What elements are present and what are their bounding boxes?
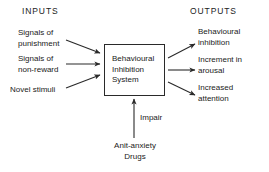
arrow-novel-stimuli-to-bis bbox=[66, 75, 100, 88]
arrow-punishment-to-bis bbox=[66, 40, 100, 53]
bis-diagram: INPUTS OUTPUTS Signals of punishment Sig… bbox=[0, 0, 269, 172]
arrow-bis-to-behavioural-inhibition bbox=[168, 44, 195, 58]
arrow-bis-to-attention bbox=[168, 82, 195, 95]
arrow-layer bbox=[0, 0, 269, 172]
